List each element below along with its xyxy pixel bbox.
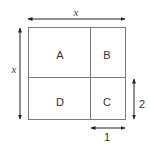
region-label-a: A	[56, 50, 63, 61]
top-dimension-label: x	[74, 7, 79, 18]
bottom-dimension-label: 1	[104, 132, 110, 143]
square-partition-diagram: A B C D x x 2 1	[0, 0, 150, 148]
region-label-d: D	[56, 97, 64, 108]
region-label-b: B	[103, 50, 110, 61]
region-label-c: C	[103, 97, 111, 108]
right-dimension-label: 2	[139, 99, 145, 110]
diagram-graphics	[0, 0, 150, 148]
left-dimension-label: x	[12, 64, 17, 75]
